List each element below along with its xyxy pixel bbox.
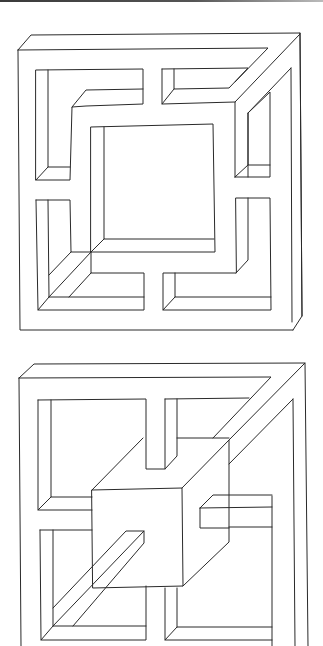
outer-frame-top-bevel xyxy=(19,363,308,646)
right-inner-edge xyxy=(293,399,295,646)
top-right-channel xyxy=(162,68,248,104)
center-square xyxy=(91,124,215,252)
right-inner-edge xyxy=(291,68,292,322)
center-cube xyxy=(92,438,229,588)
diagonal-corner-edge xyxy=(235,34,300,177)
bottom-right-window xyxy=(165,588,272,640)
diagonal-crossbar xyxy=(53,531,144,626)
outer-frame-front xyxy=(18,50,293,330)
impossible-frame-cube: Impossible square frame with central cub… xyxy=(19,363,308,646)
outer-frame-top-edge xyxy=(19,377,271,438)
bottom-left-channel xyxy=(36,200,144,310)
top-left-window xyxy=(38,399,165,510)
top-right-window xyxy=(165,398,249,469)
illustration-canvas: Impossible square frame with L-shaped in… xyxy=(0,0,323,646)
right-crossbar xyxy=(200,495,272,646)
right-upper-channel xyxy=(235,92,270,177)
impossible-frame-maze: Impossible square frame with L-shaped in… xyxy=(18,33,302,330)
outer-frame-top-bevel xyxy=(18,33,302,330)
bottom-right-channel xyxy=(163,198,271,310)
top-left-channel xyxy=(36,69,143,180)
outer-frame-front xyxy=(19,378,21,646)
